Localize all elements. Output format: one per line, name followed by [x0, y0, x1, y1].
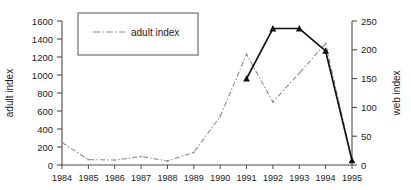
right-tick-label-200: 200	[361, 44, 377, 55]
right-axis-title: web index	[391, 70, 402, 116]
data-point-marker	[140, 156, 142, 158]
left-tick-label-400: 400	[37, 124, 53, 135]
x-tick-label-1984: 1984	[52, 173, 72, 183]
right-tick-label-150: 150	[361, 73, 377, 84]
data-point-marker	[61, 142, 63, 144]
data-point-marker	[87, 159, 89, 161]
left-tick-label-200: 200	[37, 142, 53, 153]
x-tick-label-1988: 1988	[157, 173, 177, 183]
chart-container: 0 200 400 600 800 1000 1200 1400 1600 ad…	[0, 0, 411, 190]
right-tick-label-0: 0	[361, 160, 366, 171]
x-tick-label-1995: 1995	[342, 173, 362, 183]
x-tick-label-1994: 1994	[316, 173, 336, 183]
x-tick-label-1985: 1985	[78, 173, 98, 183]
left-tick-label-1600: 1600	[32, 16, 53, 27]
left-tick-label-1000: 1000	[32, 70, 53, 81]
x-tick-label-1990: 1990	[210, 173, 230, 183]
right-tick-label-250: 250	[361, 16, 377, 27]
left-tick-label-600: 600	[37, 106, 53, 117]
left-tick-label-1400: 1400	[32, 34, 53, 45]
data-point-marker	[193, 152, 195, 154]
legend-label-adult-index: adult index	[131, 27, 179, 38]
right-tick-label-100: 100	[361, 102, 377, 113]
x-tick-label-1986: 1986	[105, 173, 125, 183]
left-axis-title: adult index	[4, 69, 15, 117]
data-point-marker	[272, 101, 274, 103]
x-tick-label-1989: 1989	[184, 173, 204, 183]
data-point-marker	[325, 43, 327, 45]
legend[interactable]: adult index	[78, 13, 198, 55]
right-tick-label-50: 50	[361, 131, 372, 142]
left-tick-label-1200: 1200	[32, 52, 53, 63]
left-tick-label-800: 800	[37, 88, 53, 99]
data-point-marker	[167, 160, 169, 162]
left-tick-label-0: 0	[48, 160, 53, 171]
data-point-marker	[246, 53, 248, 55]
data-point-marker	[298, 72, 300, 74]
x-tick-label-1992: 1992	[263, 173, 283, 183]
x-tick-label-1993: 1993	[289, 173, 309, 183]
x-tick-label-1987: 1987	[131, 173, 151, 183]
x-tick-label-1991: 1991	[236, 173, 256, 183]
line-chart: 0 200 400 600 800 1000 1200 1400 1600 ad…	[0, 0, 411, 190]
data-point-marker	[219, 116, 221, 118]
data-point-marker	[114, 159, 116, 161]
